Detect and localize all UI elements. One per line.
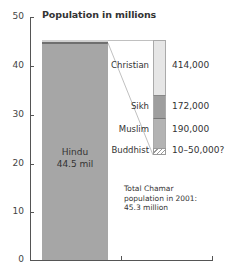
value-muslim: 190,000 xyxy=(172,124,209,134)
value-sikh: 172,000 xyxy=(172,101,209,111)
segment-sikh xyxy=(153,95,166,118)
note-line-1: Total Chamar xyxy=(124,184,197,194)
value-buddhist: 10–50,000? xyxy=(172,145,224,155)
label-christian: Christian xyxy=(111,60,149,70)
label-buddhist: Buddhist xyxy=(111,145,149,155)
segment-muslim xyxy=(153,118,166,148)
value-christian: 414,000 xyxy=(172,60,209,70)
note-line-2: population in 2001: xyxy=(124,194,197,204)
note-line-3: 45.3 million xyxy=(124,203,197,213)
segment-christian xyxy=(153,40,166,95)
total-population-note: Total Chamar population in 2001: 45.3 mi… xyxy=(124,184,197,213)
segment-buddhist xyxy=(153,148,166,155)
label-muslim: Muslim xyxy=(119,124,149,134)
breakdown-bar xyxy=(153,40,166,155)
connector-lines xyxy=(0,0,226,276)
label-sikh: Sikh xyxy=(131,101,149,111)
